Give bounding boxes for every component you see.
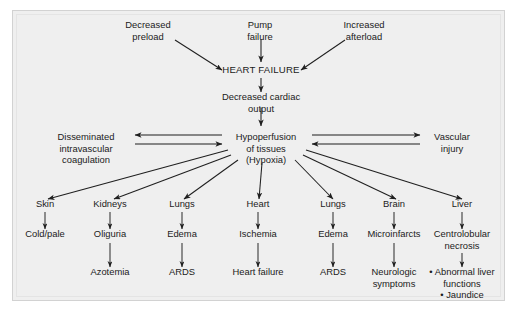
node-outcome-heart-4-line-1: Heart failure: [232, 266, 283, 277]
hypoperfusion-to-lungs-r: [295, 160, 333, 199]
node-disseminated-intravascular-coagulation-line-3: coagulation: [62, 154, 110, 165]
node-disseminated-intravascular-coagulation: Disseminatedintravascularcoagulation: [58, 131, 115, 165]
node-heart-failure: HEART FAILURE: [222, 64, 299, 75]
node-increased-afterload: Increasedafterload: [343, 19, 384, 42]
flowchart-canvas: DecreasedpreloadPumpfailureIncreasedafte…: [0, 0, 518, 326]
node-effect-liver-7: Centrolobularnecrosis: [434, 228, 490, 251]
node-effect-lungs-3-line-1: Edema: [167, 228, 197, 239]
node-organ-lungs-5: Lungs: [320, 198, 346, 209]
node-organ-lungs-3-line-1: Lungs: [169, 198, 195, 209]
node-effect-brain-6-line-1: Microinfarcts: [367, 228, 420, 239]
node-organ-heart-4: Heart: [247, 198, 270, 209]
node-organ-skin-1: Skin: [36, 198, 54, 209]
node-hypoperfusion-of-tissues-line-3: (Hypoxia): [246, 154, 286, 165]
node-effect-kidneys-2-line-1: Oliguria: [94, 228, 127, 239]
node-disseminated-intravascular-coagulation-line-2: intravascular: [59, 143, 112, 154]
node-outcome-heart-4: Heart failure: [232, 266, 283, 277]
node-outcome-brain-6: Neurologicsymptoms: [372, 266, 417, 289]
node-hypoperfusion-of-tissues-line-2: of tissues: [246, 143, 286, 154]
node-organ-lungs-3: Lungs: [169, 198, 195, 209]
node-effect-lungs-5-line-1: Edema: [318, 228, 348, 239]
node-outcome-lungs-5: ARDS: [320, 266, 346, 277]
node-increased-afterload-line-1: Increased: [343, 19, 384, 30]
node-pump-failure-line-1: Pump: [248, 19, 273, 30]
node-outcome-kidneys-2-line-1: Azotemia: [90, 266, 130, 277]
node-effect-skin-1: Cold/pale: [25, 228, 65, 239]
hypoperfusion-to-liver: [306, 150, 462, 199]
node-vascular-injury-line-1: Vascular: [434, 131, 470, 142]
node-outcome-lungs-3: ARDS: [169, 266, 195, 277]
node-disseminated-intravascular-coagulation-line-1: Disseminated: [58, 131, 115, 142]
node-outcome-liver-7: • Abnormal liverfunctions• Jaundice: [429, 266, 494, 300]
node-organ-heart-4-line-1: Heart: [247, 198, 270, 209]
nodes-layer: DecreasedpreloadPumpfailureIncreasedafte…: [25, 19, 494, 300]
node-outcome-brain-6-line-2: symptoms: [373, 278, 416, 289]
hypoperfusion-to-heart: [259, 163, 262, 199]
node-outcome-lungs-5-line-1: ARDS: [320, 266, 346, 277]
node-effect-liver-7-line-1: Centrolobular: [434, 228, 490, 239]
node-decreased-preload-line-2: preload: [132, 31, 163, 42]
node-decreased-preload: Decreasedpreload: [125, 19, 170, 42]
node-decreased-cardiac-output-line-2: output: [248, 103, 274, 114]
node-organ-liver-7: Liver: [452, 198, 472, 209]
node-increased-afterload-line-2: afterload: [346, 31, 382, 42]
node-pump-failure: Pumpfailure: [247, 19, 273, 42]
node-organ-skin-1-line-1: Skin: [36, 198, 54, 209]
node-organ-brain-6: Brain: [383, 198, 405, 209]
node-effect-heart-4: Ischemia: [239, 228, 277, 239]
node-decreased-preload-line-1: Decreased: [125, 19, 170, 30]
node-outcome-liver-7-line-3: • Jaundice: [440, 289, 483, 300]
afterload-to-heart-failure: [301, 40, 345, 70]
node-organ-liver-7-line-1: Liver: [452, 198, 472, 209]
node-decreased-cardiac-output-line-1: Decreased cardiac: [222, 91, 300, 102]
node-effect-brain-6: Microinfarcts: [367, 228, 420, 239]
node-hypoperfusion-of-tissues: Hypoperfusionof tissues(Hypoxia): [236, 131, 296, 165]
node-effect-liver-7-line-2: necrosis: [445, 240, 480, 251]
node-effect-lungs-3: Edema: [167, 228, 197, 239]
hypoperfusion-to-lungs-l: [184, 160, 238, 199]
hypoperfusion-to-brain: [303, 155, 396, 199]
node-organ-kidneys-2: Kidneys: [93, 198, 127, 209]
hypoperfusion-to-kidneys: [114, 155, 231, 199]
node-outcome-kidneys-2: Azotemia: [90, 266, 130, 277]
node-organ-brain-6-line-1: Brain: [383, 198, 405, 209]
node-heart-failure-line-1: HEART FAILURE: [222, 64, 299, 75]
node-effect-heart-4-line-1: Ischemia: [239, 228, 277, 239]
node-outcome-brain-6-line-1: Neurologic: [372, 266, 417, 277]
node-outcome-liver-7-line-1: • Abnormal liver: [429, 266, 494, 277]
node-organ-lungs-5-line-1: Lungs: [320, 198, 346, 209]
node-hypoperfusion-of-tissues-line-1: Hypoperfusion: [236, 131, 296, 142]
node-outcome-lungs-3-line-1: ARDS: [169, 266, 195, 277]
node-vascular-injury: Vascularinjury: [434, 131, 470, 154]
node-vascular-injury-line-2: injury: [441, 143, 464, 154]
node-decreased-cardiac-output: Decreased cardiacoutput: [222, 91, 300, 114]
node-outcome-liver-7-line-2: functions: [443, 278, 481, 289]
node-effect-kidneys-2: Oliguria: [94, 228, 127, 239]
node-effect-lungs-5: Edema: [318, 228, 348, 239]
node-effect-skin-1-line-1: Cold/pale: [25, 228, 65, 239]
figure-root: DecreasedpreloadPumpfailureIncreasedafte…: [0, 0, 518, 326]
node-pump-failure-line-2: failure: [247, 31, 273, 42]
node-organ-kidneys-2-line-1: Kidneys: [93, 198, 127, 209]
preload-to-heart-failure: [175, 40, 222, 70]
